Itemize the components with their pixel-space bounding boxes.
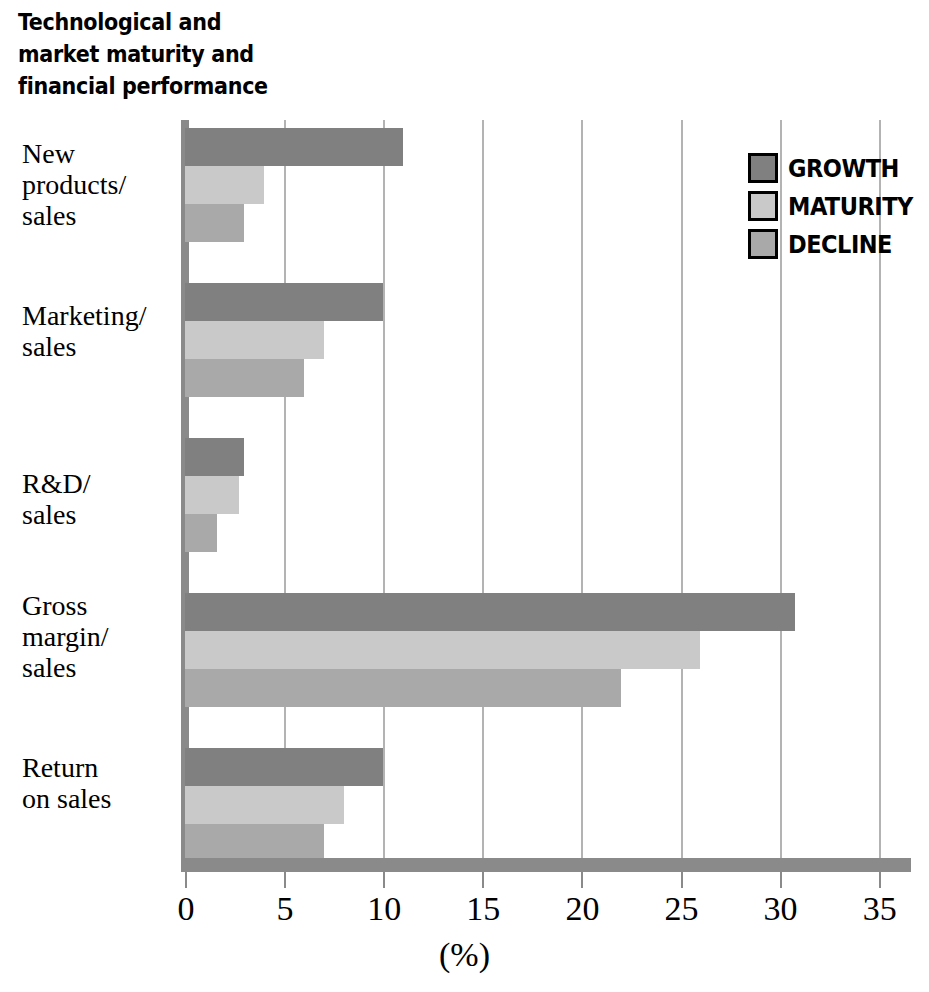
bar-growth-3 bbox=[185, 593, 795, 631]
bar-maturity-2 bbox=[185, 476, 239, 514]
x-tick-25 bbox=[681, 872, 683, 888]
gridline-15 bbox=[482, 120, 484, 858]
x-axis-unit-label: (%) bbox=[0, 936, 929, 974]
legend-swatch-maturity-icon bbox=[748, 191, 778, 221]
bar-growth-0 bbox=[185, 128, 403, 166]
x-tick-label-0: 0 bbox=[178, 890, 195, 928]
x-tick-10 bbox=[383, 872, 385, 888]
x-tick-0 bbox=[185, 872, 187, 888]
x-tick-label-10: 10 bbox=[367, 890, 401, 928]
category-label-gross-margin: Gross margin/ sales bbox=[22, 590, 172, 683]
legend-label-growth: GROWTH bbox=[788, 154, 899, 183]
x-tick-5 bbox=[284, 872, 286, 888]
x-tick-label-15: 15 bbox=[466, 890, 500, 928]
x-tick-label-20: 20 bbox=[565, 890, 599, 928]
bar-decline-0 bbox=[185, 204, 244, 242]
bar-growth-2 bbox=[185, 438, 244, 476]
x-tick-label-5: 5 bbox=[277, 890, 294, 928]
x-tick-20 bbox=[581, 872, 583, 888]
bar-maturity-3 bbox=[185, 631, 700, 669]
category-label-rd: R&D/ sales bbox=[22, 468, 172, 530]
category-label-new-products: New products/ sales bbox=[22, 138, 172, 231]
bar-decline-3 bbox=[185, 669, 621, 707]
bar-maturity-4 bbox=[185, 786, 344, 824]
x-tick-35 bbox=[879, 872, 881, 888]
chart-legend: GROWTH MATURITY DECLINE bbox=[748, 150, 913, 264]
category-label-marketing: Marketing/ sales bbox=[22, 300, 172, 362]
x-tick-label-25: 25 bbox=[665, 890, 699, 928]
x-axis-baseline bbox=[181, 858, 911, 872]
x-tick-label-35: 35 bbox=[863, 890, 897, 928]
x-tick-15 bbox=[482, 872, 484, 888]
bar-decline-2 bbox=[185, 514, 217, 552]
gridline-10 bbox=[383, 120, 385, 858]
bar-maturity-0 bbox=[185, 166, 264, 204]
category-label-return-on-sales: Return on sales bbox=[22, 752, 172, 814]
legend-item-decline[interactable]: DECLINE bbox=[748, 226, 913, 262]
bar-decline-4 bbox=[185, 824, 324, 862]
legend-item-growth[interactable]: GROWTH bbox=[748, 150, 913, 186]
legend-swatch-growth-icon bbox=[748, 153, 778, 183]
gridline-20 bbox=[581, 120, 583, 858]
legend-item-maturity[interactable]: MATURITY bbox=[748, 188, 913, 224]
legend-swatch-decline-icon bbox=[748, 229, 778, 259]
bar-maturity-1 bbox=[185, 321, 324, 359]
legend-label-decline: DECLINE bbox=[788, 230, 892, 259]
x-tick-label-30: 30 bbox=[764, 890, 798, 928]
gridline-25 bbox=[681, 120, 683, 858]
page-title: Technological and market maturity and fi… bbox=[18, 6, 348, 102]
x-tick-30 bbox=[780, 872, 782, 888]
bar-growth-1 bbox=[185, 283, 383, 321]
bar-decline-1 bbox=[185, 359, 304, 397]
legend-label-maturity: MATURITY bbox=[788, 192, 913, 221]
bar-growth-4 bbox=[185, 748, 383, 786]
